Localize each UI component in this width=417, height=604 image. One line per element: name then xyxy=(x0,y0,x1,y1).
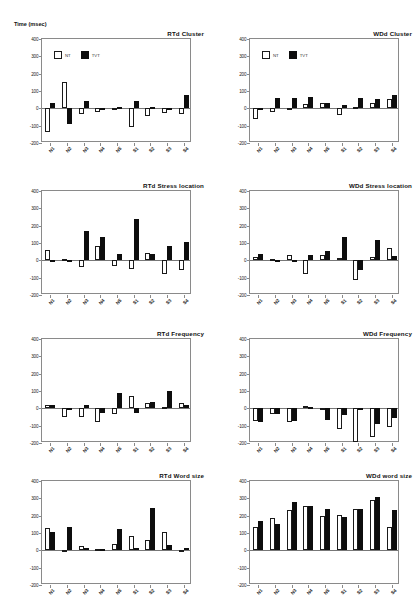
x-tick-label-n1: N1 xyxy=(256,298,264,306)
chart-panel-wdd-cluster: WDd Cluster4003002001000-100-200N1N2N3N4… xyxy=(216,30,416,170)
x-tick-label-s4: S4 xyxy=(182,446,190,454)
x-tick-label-n3: N3 xyxy=(290,446,298,454)
x-tick-label-n1: N1 xyxy=(256,588,264,596)
bar-tvt-s3 xyxy=(375,497,380,551)
bar-tvt-n5 xyxy=(325,509,330,551)
x-tick-mark xyxy=(342,295,343,298)
y-tick-label: -100 xyxy=(238,275,250,280)
bar-tvt-n3 xyxy=(84,405,89,409)
x-tick-label-n4: N4 xyxy=(306,146,314,154)
x-tick-mark xyxy=(134,443,135,446)
chart-title: RTd Frequency xyxy=(157,330,204,337)
y-tick-label: 100 xyxy=(239,531,250,536)
y-tick-label: -100 xyxy=(30,565,42,570)
y-tick-label: 400 xyxy=(31,479,42,484)
legend-label-filled: TVT xyxy=(300,53,308,58)
y-tick-label: 400 xyxy=(239,479,250,484)
plot-area: 4003002001000-100-200N1N2N3N4N5S1S2S3S4N… xyxy=(249,38,399,142)
y-tick-label: 100 xyxy=(31,531,42,536)
x-tick-label-n2: N2 xyxy=(65,446,73,454)
bar-nt-n5 xyxy=(112,408,117,413)
x-tick-label-n1: N1 xyxy=(48,146,56,154)
bar-tvt-s3 xyxy=(167,108,172,110)
bar-tvt-n3 xyxy=(84,231,89,260)
bar-nt-n3 xyxy=(79,408,84,416)
x-tick-label-s4: S4 xyxy=(390,588,398,596)
y-tick-label: 300 xyxy=(239,496,250,501)
x-tick-mark xyxy=(392,143,393,146)
bar-tvt-s4 xyxy=(392,408,397,418)
x-tick-label-n5: N5 xyxy=(115,146,123,154)
x-tick-label-n2: N2 xyxy=(65,298,73,306)
x-tick-mark xyxy=(184,143,185,146)
x-tick-label-s3: S3 xyxy=(373,146,381,154)
y-tick-label: 400 xyxy=(239,37,250,42)
x-tick-label-n3: N3 xyxy=(82,446,90,454)
bar-tvt-n2 xyxy=(275,524,280,550)
y-tick-label: -100 xyxy=(238,423,250,428)
bar-tvt-n4 xyxy=(308,506,313,551)
bar-tvt-s2 xyxy=(150,254,155,261)
y-tick-label: 200 xyxy=(239,223,250,228)
x-tick-label-s4: S4 xyxy=(390,146,398,154)
legend-swatch-filled xyxy=(81,51,89,59)
y-tick-label: 300 xyxy=(239,354,250,359)
y-tick-label: 200 xyxy=(31,223,42,228)
y-tick-label: 100 xyxy=(239,89,250,94)
bar-tvt-n1 xyxy=(258,254,263,261)
bar-tvt-n5 xyxy=(325,408,330,419)
bar-tvt-n5 xyxy=(117,107,122,109)
bar-nt-n3 xyxy=(287,108,292,110)
y-tick-label: 400 xyxy=(239,337,250,342)
chart-title: WDd word size xyxy=(366,472,412,479)
x-tick-label-n4: N4 xyxy=(306,588,314,596)
bar-tvt-s3 xyxy=(375,240,380,260)
bar-tvt-s3 xyxy=(375,99,380,108)
bar-tvt-s4 xyxy=(392,256,397,260)
bar-tvt-n5 xyxy=(325,103,330,108)
x-tick-label-s3: S3 xyxy=(165,298,173,306)
figure-multi-panel-bar-charts: Time (msec)RTd Cluster4003002001000-100-… xyxy=(0,0,417,604)
y-tick-label: -100 xyxy=(238,123,250,128)
x-tick-mark xyxy=(84,295,85,298)
chart-panel-rtd-stress-location: RTd Stress location4003002001000-100-200… xyxy=(8,182,208,322)
chart-panel-wdd-frequency: WDd Frequency4003002001000-100-200N1N2N3… xyxy=(216,330,416,470)
y-tick-label: 200 xyxy=(31,71,42,76)
x-tick-mark xyxy=(392,585,393,588)
x-tick-mark xyxy=(184,585,185,588)
chart-panel-wdd-word-size: WDd word size4003002001000-100-200N1N2N3… xyxy=(216,472,416,604)
x-tick-label-n5: N5 xyxy=(323,588,331,596)
bar-tvt-s1 xyxy=(342,237,347,260)
bar-nt-s4 xyxy=(179,108,184,113)
y-tick-label: 100 xyxy=(31,241,42,246)
x-tick-label-s2: S2 xyxy=(148,588,156,596)
y-tick-label: 300 xyxy=(31,354,42,359)
y-tick-label: -100 xyxy=(30,423,42,428)
y-axis-label: Time (msec) xyxy=(14,21,47,27)
bar-tvt-n4 xyxy=(100,237,105,260)
x-tick-label-s1: S1 xyxy=(132,446,140,454)
bar-tvt-n3 xyxy=(84,548,89,551)
bar-tvt-n4 xyxy=(100,108,105,110)
x-tick-mark xyxy=(134,585,135,588)
x-tick-mark xyxy=(292,143,293,146)
x-tick-label-s3: S3 xyxy=(373,588,381,596)
bar-tvt-s4 xyxy=(184,242,189,261)
x-tick-label-n5: N5 xyxy=(115,298,123,306)
bar-tvt-s2 xyxy=(150,402,155,409)
y-tick-label: 100 xyxy=(239,241,250,246)
x-tick-label-s2: S2 xyxy=(356,588,364,596)
x-tick-label-n2: N2 xyxy=(273,146,281,154)
x-tick-mark xyxy=(184,295,185,298)
x-tick-label-n5: N5 xyxy=(115,588,123,596)
bar-tvt-s2 xyxy=(358,509,363,550)
bar-tvt-n1 xyxy=(50,103,55,108)
bar-tvt-n3 xyxy=(292,502,297,550)
bar-tvt-n4 xyxy=(308,97,313,109)
y-tick-label: 300 xyxy=(239,54,250,59)
y-tick-label: -200 xyxy=(30,141,42,146)
bar-tvt-n2 xyxy=(67,260,72,262)
y-tick-label: 300 xyxy=(31,496,42,501)
chart-title: RTd Stress location xyxy=(143,182,204,189)
bar-tvt-n2 xyxy=(275,98,280,108)
